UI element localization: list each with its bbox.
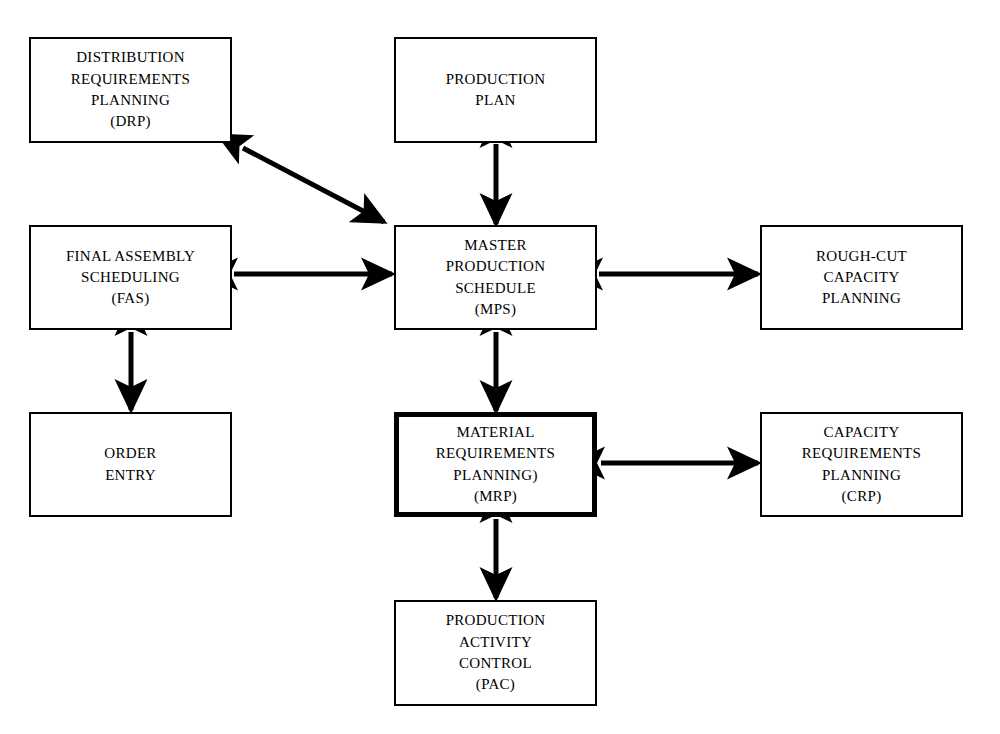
node-label-line: PRODUCTION xyxy=(446,256,546,277)
node-label-line: MATERIAL xyxy=(456,422,534,443)
node-label-line: (MPS) xyxy=(475,299,517,320)
node-label-line: PLANNING xyxy=(91,90,170,111)
node-order-entry[interactable]: ORDERENTRY xyxy=(29,412,232,517)
node-label-line: FINAL ASSEMBLY xyxy=(66,246,195,267)
node-label-line: SCHEDULING xyxy=(81,267,180,288)
node-production-plan[interactable]: PRODUCTIONPLAN xyxy=(394,37,597,143)
node-label-line: (FAS) xyxy=(112,288,150,309)
node-label-line: ACTIVITY xyxy=(459,632,532,653)
node-material-requirements-planning[interactable]: MATERIALREQUIREMENTSPLANNING)(MRP) xyxy=(394,412,597,517)
connector-drp-mps xyxy=(243,148,384,222)
node-rough-cut-capacity-planning[interactable]: ROUGH-CUTCAPACITYPLANNING xyxy=(760,225,963,330)
node-label-line: PLANNING xyxy=(822,465,901,486)
node-label-line: ROUGH-CUT xyxy=(816,246,907,267)
node-distribution-requirements-planning[interactable]: DISTRIBUTIONREQUIREMENTSPLANNING(DRP) xyxy=(29,37,232,143)
node-label-line: CAPACITY xyxy=(823,422,899,443)
node-label-line: REQUIREMENTS xyxy=(71,69,190,90)
node-label-line: CAPACITY xyxy=(823,267,899,288)
node-label-line: PRODUCTION xyxy=(446,69,546,90)
node-label-line: ENTRY xyxy=(105,465,156,486)
node-label-line: REQUIREMENTS xyxy=(802,443,921,464)
node-production-activity-control[interactable]: PRODUCTIONACTIVITYCONTROL(PAC) xyxy=(394,600,597,706)
node-label-line: PLANNING xyxy=(822,288,901,309)
node-label-line: (PAC) xyxy=(476,674,515,695)
node-master-production-schedule[interactable]: MASTERPRODUCTIONSCHEDULE(MPS) xyxy=(394,225,597,330)
node-label-line: PLAN xyxy=(475,90,515,111)
node-label-line: REQUIREMENTS xyxy=(436,443,555,464)
node-label-line: ORDER xyxy=(104,443,156,464)
node-label-line: CONTROL xyxy=(459,653,532,674)
node-label-line: PLANNING) xyxy=(453,465,537,486)
node-label-line: (MRP) xyxy=(474,486,517,507)
diagram-canvas: DISTRIBUTIONREQUIREMENTSPLANNING(DRP)PRO… xyxy=(0,0,1000,734)
node-label-line: PRODUCTION xyxy=(446,610,546,631)
node-label-line: (CRP) xyxy=(842,486,882,507)
node-label-line: MASTER xyxy=(464,235,527,256)
node-final-assembly-scheduling[interactable]: FINAL ASSEMBLYSCHEDULING(FAS) xyxy=(29,225,232,330)
node-capacity-requirements-planning[interactable]: CAPACITYREQUIREMENTSPLANNING(CRP) xyxy=(760,412,963,517)
node-label-line: (DRP) xyxy=(110,111,151,132)
node-label-line: DISTRIBUTION xyxy=(76,47,185,68)
node-label-line: SCHEDULE xyxy=(455,278,536,299)
